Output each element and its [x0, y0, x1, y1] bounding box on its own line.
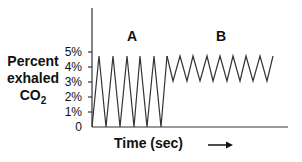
x-axis-label: Time (sec) [114, 135, 183, 151]
arrow-right-icon [208, 142, 233, 149]
series-b-line [167, 56, 273, 81]
series-a-line [92, 56, 167, 127]
